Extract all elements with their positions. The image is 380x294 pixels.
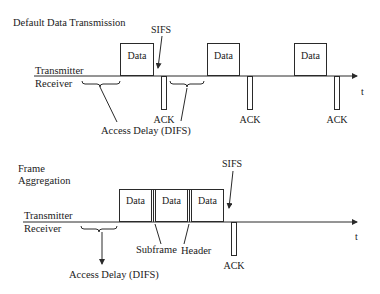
sifs-label: SIFS	[222, 158, 242, 169]
section-title-aggregation-line1: Frame	[18, 163, 45, 174]
receiver-label: Receiver	[35, 78, 73, 89]
access-delay-label: Access Delay (DIFS)	[69, 269, 159, 281]
header-pointer	[184, 224, 189, 244]
svg-text:ACK: ACK	[153, 114, 175, 125]
svg-text:ACK: ACK	[239, 114, 261, 125]
access-delay-brace	[81, 226, 117, 232]
header-label: Header	[181, 245, 212, 256]
ack-frame: ACK	[223, 223, 245, 272]
subframe-pointer	[155, 224, 161, 244]
svg-text:Data: Data	[301, 50, 320, 61]
svg-text:Data: Data	[162, 195, 181, 206]
access-delay-pointer	[100, 87, 117, 122]
access-delay-label: Access Delay (DIFS)	[101, 125, 191, 137]
ack-frame: ACK	[326, 77, 348, 126]
svg-text:ACK: ACK	[326, 114, 348, 125]
time-label: t	[355, 231, 358, 242]
subframe: Data	[192, 190, 224, 222]
access-delay-brace	[82, 81, 120, 87]
data-frame: Data	[295, 44, 327, 76]
sifs-arrow	[229, 171, 233, 208]
access-delay-pointer	[181, 88, 187, 121]
receiver-label: Receiver	[24, 223, 62, 234]
svg-text:ACK: ACK	[223, 260, 245, 271]
diagram-canvas: Default Data Transmission Transmitter Re…	[0, 0, 380, 294]
data-frame: Data	[208, 44, 240, 76]
data-frame: Data	[121, 44, 154, 76]
default-transmission-section: Default Data Transmission Transmitter Re…	[13, 17, 364, 137]
subframe-label: Subframe	[136, 244, 177, 255]
time-label: t	[361, 86, 364, 97]
ack-frame: ACK	[239, 77, 261, 126]
subframe: Data	[120, 190, 152, 222]
svg-text:Data: Data	[128, 50, 147, 61]
svg-text:Data: Data	[214, 50, 233, 61]
svg-text:Data: Data	[198, 195, 217, 206]
sifs-arrow	[158, 36, 162, 68]
svg-text:Data: Data	[126, 195, 145, 206]
frame-aggregation-section: Frame Aggregation Transmitter Receiver t…	[18, 158, 358, 281]
section-title-aggregation-line2: Aggregation	[18, 175, 71, 186]
transmitter-label: Transmitter	[35, 65, 84, 76]
transmitter-label: Transmitter	[24, 210, 73, 221]
sifs-label: SIFS	[151, 24, 171, 35]
section-title-default: Default Data Transmission	[13, 17, 126, 28]
subframe: Data	[156, 190, 188, 222]
access-delay-brace	[170, 81, 204, 87]
